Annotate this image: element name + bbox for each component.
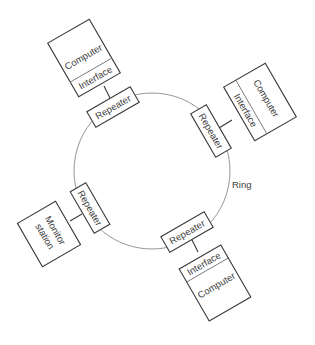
- repeater-box: Repeater: [87, 87, 139, 128]
- node-right: Computer Interface Repeater: [191, 63, 297, 157]
- computer-box: Interface Computer: [179, 245, 251, 321]
- computer-box: Computer Interface: [224, 63, 297, 141]
- connector-line: [192, 240, 198, 252]
- node-left: Monitor station Repeater: [17, 183, 109, 267]
- computer-box: Computer Interface: [48, 19, 121, 97]
- repeater-box: Repeater: [161, 212, 213, 253]
- connector-line: [219, 120, 232, 128]
- node-bottom: Interface Computer Repeater: [161, 212, 251, 321]
- connector-line: [70, 214, 82, 221]
- ring-label: Ring: [232, 179, 252, 190]
- repeater-box: Repeater: [70, 183, 110, 234]
- repeater-box: Repeater: [191, 105, 232, 157]
- connector-line: [104, 86, 110, 98]
- node-top-left: Computer Interface Repeater: [48, 19, 139, 127]
- monitor-station-box: Monitor station: [17, 201, 80, 266]
- ring-network-diagram: Ring Computer Interface Repeater Compute…: [0, 0, 315, 345]
